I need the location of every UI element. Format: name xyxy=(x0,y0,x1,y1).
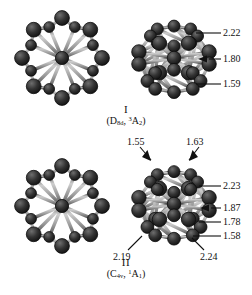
caption-isomer-ii: II (C4v, 1A1) xyxy=(0,257,252,280)
peripheral-atom xyxy=(26,170,41,185)
tilted-view-isomer-ii xyxy=(122,152,228,256)
state-letter-ii: A xyxy=(131,268,138,279)
state-sub-ii: 1 xyxy=(139,272,142,279)
peripheral-atom xyxy=(149,82,162,95)
state-letter-i: A xyxy=(132,115,139,126)
tilted-view-isomer-i xyxy=(122,8,228,108)
peripheral-atom xyxy=(44,232,55,243)
peripheral-atom xyxy=(132,57,146,71)
peripheral-atom xyxy=(88,40,99,51)
measurement-label-1-63: 1.63 xyxy=(186,136,204,147)
peripheral-atom xyxy=(44,22,55,33)
central-atom xyxy=(167,51,181,65)
peripheral-atom xyxy=(69,170,80,181)
peripheral-atom xyxy=(168,166,180,178)
peripheral-atom xyxy=(168,63,181,76)
central-atom xyxy=(55,199,68,212)
peripheral-atom xyxy=(69,84,80,95)
peripheral-atom xyxy=(44,84,55,95)
peripheral-atom xyxy=(83,170,98,185)
peripheral-atom xyxy=(83,79,98,94)
peripheral-atom xyxy=(181,36,195,50)
caption-isomer-i: I (D8d, 3A2) xyxy=(0,104,252,127)
peripheral-atom xyxy=(26,22,41,37)
peripheral-atom xyxy=(151,183,163,195)
peripheral-atom xyxy=(55,239,70,254)
peripheral-atom xyxy=(26,188,37,199)
peripheral-atom xyxy=(202,57,216,71)
peripheral-atom xyxy=(152,36,166,50)
peripheral-atom xyxy=(185,183,197,195)
peripheral-atom xyxy=(168,209,181,222)
peripheral-atom xyxy=(26,65,37,76)
peripheral-atom xyxy=(95,51,110,66)
peripheral-atom xyxy=(88,65,99,76)
peripheral-atom xyxy=(202,203,216,217)
peripheral-atom xyxy=(26,227,41,242)
measurement-label-2-23: 2.23 xyxy=(223,180,241,191)
point-group-ii: C xyxy=(110,268,117,279)
term-symbol-ii: (C4v, 1A1) xyxy=(0,269,252,280)
peripheral-atom xyxy=(132,203,146,217)
peripheral-atom xyxy=(55,11,70,26)
peripheral-atom xyxy=(132,190,146,204)
measurement-label-2-22: 2.22 xyxy=(223,27,241,38)
peripheral-atom xyxy=(168,232,181,245)
peripheral-atom xyxy=(152,212,166,226)
peripheral-atom xyxy=(168,86,181,99)
peripheral-atom xyxy=(168,20,180,32)
axial-cluster-svg-ii xyxy=(8,156,116,256)
peripheral-atom xyxy=(15,199,30,214)
measurement-label-1-87: 1.87 xyxy=(223,202,241,213)
measurement-label-1-80: 1.80 xyxy=(223,53,241,64)
state-sub-i: 2 xyxy=(139,119,142,126)
peripheral-atom xyxy=(83,227,98,242)
axial-view-isomer-i xyxy=(8,8,116,108)
measurement-label-1-78: 1.78 xyxy=(223,216,241,227)
peripheral-atom xyxy=(168,186,180,198)
peripheral-atom xyxy=(44,170,55,181)
peripheral-atom xyxy=(69,22,80,33)
peripheral-atom xyxy=(55,159,70,174)
axial-view-isomer-ii xyxy=(8,156,116,256)
measurement-label-1-59: 1.59 xyxy=(223,78,241,89)
peripheral-atom xyxy=(181,212,195,226)
measurement-label-1-55: 1.55 xyxy=(127,136,145,147)
tilted-cluster-svg-ii xyxy=(122,152,228,256)
peripheral-atom xyxy=(168,40,180,52)
peripheral-atom xyxy=(149,229,162,242)
peripheral-atom xyxy=(88,188,99,199)
peripheral-atom xyxy=(15,51,30,66)
peripheral-atom xyxy=(26,40,37,51)
term-symbol-i: (D8d, 3A2) xyxy=(0,116,252,127)
peripheral-atom xyxy=(202,190,216,204)
central-atom xyxy=(55,51,68,64)
peripheral-atom xyxy=(26,79,41,94)
molecular-structure-figure: 2.22 1.80 1.59 I (D8d, 3A2) 1.55 1.63 xyxy=(0,0,252,295)
axial-cluster-svg-i xyxy=(8,8,116,108)
peripheral-atom xyxy=(69,232,80,243)
measurement-label-1-58: 1.58 xyxy=(223,230,241,241)
point-group-i: D xyxy=(110,115,117,126)
peripheral-atom xyxy=(83,22,98,37)
peripheral-atom xyxy=(95,199,110,214)
tilted-cluster-svg-i xyxy=(122,8,228,108)
peripheral-atom xyxy=(26,213,37,224)
peripheral-atom xyxy=(186,82,199,95)
peripheral-atom xyxy=(186,229,199,242)
peripheral-atom xyxy=(88,213,99,224)
